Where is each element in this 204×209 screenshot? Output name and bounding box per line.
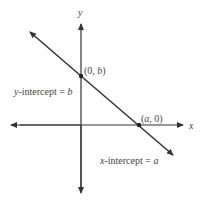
x-axis-label: x: [188, 120, 194, 131]
x-intercept-annotation: x-intercept = a: [99, 155, 158, 166]
graph-line: [30, 32, 81, 76]
intercept-diagram: y x (0, b) (a, 0) y-intercept = b x-inte…: [0, 0, 204, 209]
y-axis-label: y: [77, 7, 83, 18]
y-intercept-annotation: y-intercept = b: [13, 86, 72, 97]
x-intercept-coord: (a, 0): [141, 113, 163, 125]
y-intercept-point: [79, 74, 83, 78]
y-intercept-coord: (0, b): [84, 65, 106, 77]
